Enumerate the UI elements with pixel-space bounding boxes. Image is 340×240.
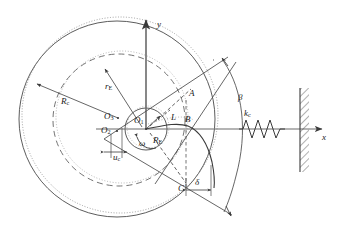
label-rE: rE: [105, 82, 112, 91]
label-delta: δ: [195, 178, 199, 187]
follower-line-lower: [104, 139, 232, 215]
technical-diagram-figure: y x Rc rE RE O1 O2 O3 uc L ω β δ kc A B …: [0, 0, 340, 240]
label-O3: O3: [104, 112, 114, 121]
label-point-A: A: [189, 89, 195, 98]
label-kc: kc: [244, 109, 251, 118]
diagram-canvas: [0, 0, 340, 240]
y-axis-label: y: [157, 20, 161, 29]
label-Rc: Rc: [61, 97, 69, 106]
fixed-wall-hatching: [300, 88, 309, 172]
label-O1: O1: [134, 116, 144, 125]
label-beta: β: [238, 93, 242, 102]
label-L: L: [171, 113, 176, 122]
inner-dotted-circle: [56, 51, 188, 183]
cam-lobe-profile: [146, 117, 214, 188]
label-O2: O2: [101, 126, 111, 135]
label-point-C: C: [178, 184, 184, 193]
label-uc: uc: [113, 153, 120, 162]
x-axis-label: x: [322, 133, 326, 142]
follower-line-upper: [104, 57, 228, 139]
angle-beta-arc: [222, 58, 242, 216]
label-omega: ω: [139, 139, 145, 148]
label-point-B: B: [185, 115, 191, 124]
label-RE: RE: [153, 136, 162, 145]
